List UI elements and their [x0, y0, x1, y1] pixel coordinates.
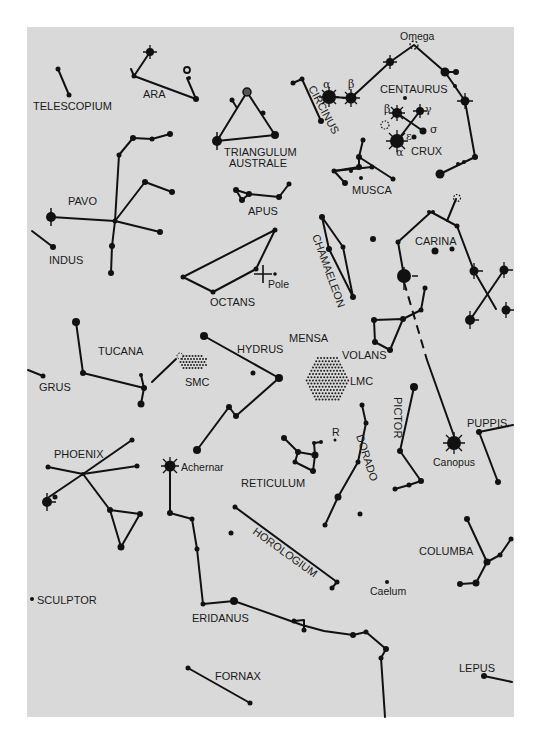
star-canopus — [443, 432, 465, 454]
greek-letter: ε — [406, 130, 412, 143]
label-pavo: PAVO — [68, 195, 97, 207]
greek-letter: γ — [425, 103, 432, 116]
label-mensa: MENSA — [289, 332, 329, 344]
annotation-r: R — [332, 426, 340, 438]
label-eridanus: ERIDANUS — [192, 612, 249, 624]
label-crux: CRUX — [411, 145, 443, 157]
greek-letter: σ — [430, 123, 438, 136]
label-smc: SMC — [185, 376, 210, 388]
greek-letter: α — [323, 78, 331, 91]
label-sculptor: SCULPTOR — [37, 594, 97, 606]
label-telescopium: TELESCOPIUM — [33, 100, 112, 112]
label-centaurus: CENTAURUS — [380, 83, 448, 95]
label-puppis: PUPPIS — [467, 417, 507, 429]
annotation-canopus: Canopus — [433, 456, 475, 468]
label-hydrus: HYDRUS — [237, 343, 283, 355]
label-phoenix: PHOENIX — [54, 448, 104, 460]
constellation-caelum — [385, 580, 389, 584]
annotation-omega: Omega — [400, 30, 435, 42]
label-lmc: LMC — [350, 375, 373, 387]
annotation-caelum: Caelum — [370, 585, 406, 597]
label-indus: INDUS — [49, 254, 83, 266]
label-musca: MUSCA — [352, 184, 392, 196]
label-fornax: FORNAX — [215, 670, 262, 682]
greek-letter: β — [348, 78, 354, 91]
label-columba: COLUMBA — [419, 545, 474, 557]
label-reticulum: RETICULUM — [241, 477, 305, 489]
annotation-achernar: Achernar — [181, 461, 224, 473]
label-australe: AUSTRALE — [229, 157, 287, 169]
label-octans: OCTANS — [210, 296, 255, 308]
greek-letter: β — [384, 103, 390, 116]
label-lepus: LEPUS — [459, 662, 495, 674]
label-pictor: PICTOR — [392, 397, 404, 438]
constellation-sculptor — [30, 597, 34, 601]
label-apus: APUS — [248, 205, 278, 217]
label-volans: VOLANS — [342, 349, 387, 361]
greek-letter: α — [396, 146, 404, 159]
label-tucana: TUCANA — [98, 345, 144, 357]
label-carina: CARINA — [415, 235, 457, 247]
annotation-pole: Pole — [268, 278, 289, 290]
label-ara: ARA — [143, 88, 166, 100]
southern-sky-star-chart: TELESCOPIUMARATRIANGULUMAUSTRALECIRCINUS… — [0, 0, 537, 737]
label-grus: GRUS — [39, 381, 71, 393]
